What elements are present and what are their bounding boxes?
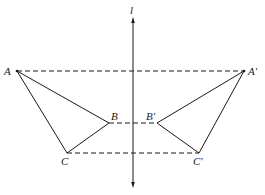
axis-label: l [130,4,133,16]
triangle-ABC [17,71,109,153]
triangle-A-prime-B-prime-C-prime [157,71,244,153]
point-A-prime [243,70,246,73]
label-B: B [111,110,118,122]
label-A-prime: A′ [247,65,258,77]
label-A: A [3,65,11,77]
reflection-diagram: l A B C A′ B′ C′ [0,0,265,195]
label-C-prime: C′ [193,155,203,167]
label-C: C [61,155,69,167]
point-A [16,70,19,73]
label-B-prime: B′ [146,110,156,122]
